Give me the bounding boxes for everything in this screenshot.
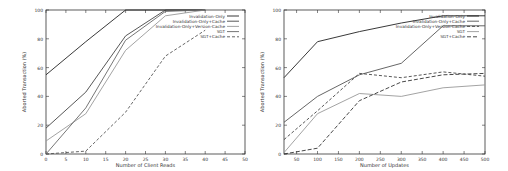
y-tick-label: 40: [37, 94, 43, 99]
x-tick-label: 150: [334, 157, 343, 162]
series-line-sgt: [284, 85, 485, 153]
y-tick-label: 100: [272, 8, 281, 13]
legend-label: SGT+Cache: [440, 34, 465, 39]
y-axis-label: Aborted Transaction (%): [259, 52, 265, 112]
x-tick-label: 100: [313, 157, 322, 162]
series-line-sgt-cache: [284, 73, 485, 154]
x-tick-label: 40: [202, 157, 208, 162]
legend-label: SGT+Cache: [200, 34, 225, 39]
y-tick-label: 60: [275, 66, 281, 71]
x-tick-label: 450: [460, 157, 469, 162]
series-line-invalidation-only-version-cache: [46, 10, 205, 141]
chart-updates: 0204060801005010015020025030035040045050…: [254, 0, 508, 171]
chart-left-svg: 02040608010005101520253035404550Number o…: [0, 0, 254, 171]
y-tick-label: 80: [37, 37, 43, 42]
y-tick-label: 80: [275, 37, 281, 42]
y-tick-label: 60: [37, 66, 43, 71]
y-tick-label: 20: [37, 123, 43, 128]
y-tick-label: 40: [275, 94, 281, 99]
x-tick-label: 45: [222, 157, 228, 162]
x-tick-label: 350: [418, 157, 427, 162]
x-tick-label: 10: [83, 157, 89, 162]
legend-label: Invalidation-Only+Version-Cache: [156, 24, 226, 29]
x-tick-label: 50: [294, 157, 300, 162]
series-line-invalidation-only-version-cache: [284, 72, 485, 140]
y-axis-label: Aborted Transaction (%): [21, 52, 27, 112]
chart-right-svg: 0204060801005010015020025030035040045050…: [254, 0, 508, 171]
plot-frame: [284, 10, 485, 154]
y-tick-label: 0: [278, 152, 281, 157]
y-tick-label: 100: [34, 8, 43, 13]
chart-client-reads: 02040608010005101520253035404550Number o…: [0, 0, 254, 171]
x-tick-label: 5: [64, 157, 67, 162]
series-line-invalidation-only-cache: [284, 26, 485, 123]
x-axis-label: Number of Updates: [360, 162, 409, 169]
x-tick-label: 500: [481, 157, 490, 162]
y-tick-label: 20: [275, 123, 281, 128]
x-tick-label: 50: [242, 157, 248, 162]
y-tick-label: 0: [40, 152, 43, 157]
x-tick-label: 15: [103, 157, 109, 162]
x-tick-label: 35: [182, 157, 188, 162]
x-tick-label: 400: [439, 157, 448, 162]
series-line-sgt: [46, 10, 205, 154]
x-tick-label: 0: [45, 157, 48, 162]
legend-label: Invalidation-Only+Version-Cache: [396, 24, 466, 29]
plot-frame: [46, 10, 245, 154]
series-line-sgt-cache: [46, 30, 205, 154]
x-axis-label: Number of Client Reads: [116, 162, 176, 168]
